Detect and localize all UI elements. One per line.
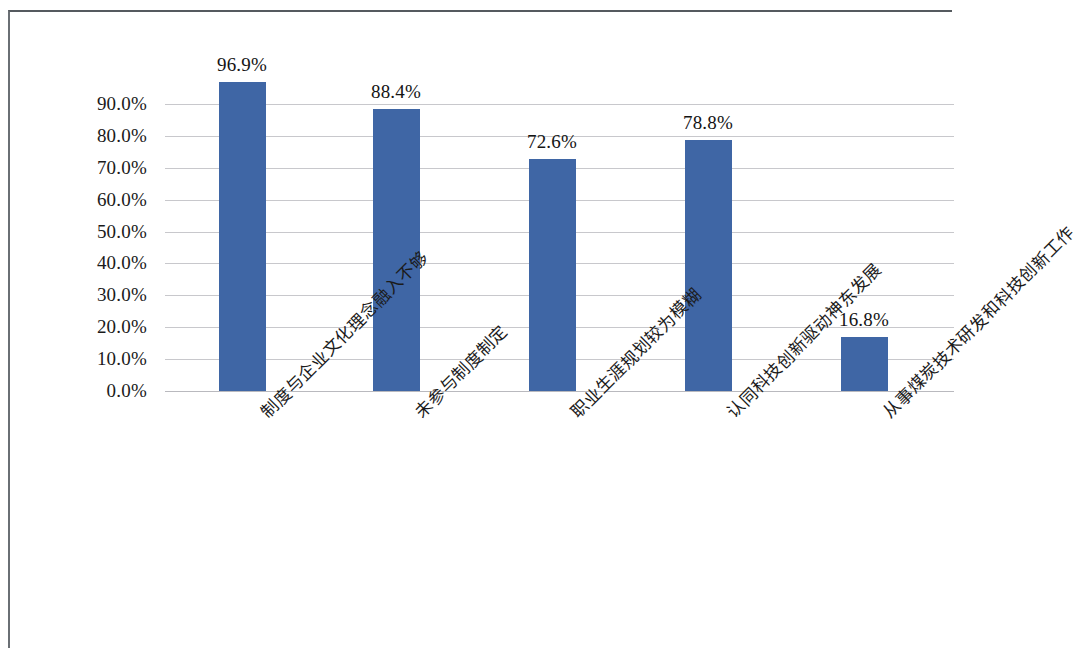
chart-frame: 0.0%10.0%20.0%30.0%40.0%50.0%60.0%70.0%8… bbox=[8, 10, 952, 648]
y-axis-tick-label: 0.0% bbox=[107, 380, 147, 402]
y-axis-tick-label: 20.0% bbox=[97, 316, 147, 338]
bar-value-label: 78.8% bbox=[683, 112, 733, 134]
category-label: 未参与制度制定 bbox=[408, 318, 512, 422]
bar[interactable] bbox=[219, 82, 266, 391]
bar[interactable] bbox=[685, 140, 732, 391]
y-axis-tick-label: 90.0% bbox=[97, 93, 147, 115]
bar[interactable] bbox=[841, 337, 888, 391]
y-axis-tick-label: 50.0% bbox=[97, 221, 147, 243]
y-axis-tick-label: 70.0% bbox=[97, 157, 147, 179]
gridline bbox=[165, 104, 954, 105]
plot-area: 0.0%10.0%20.0%30.0%40.0%50.0%60.0%70.0%8… bbox=[165, 72, 954, 391]
y-axis-tick-label: 60.0% bbox=[97, 189, 147, 211]
y-axis-tick-label: 40.0% bbox=[97, 252, 147, 274]
bar-value-label: 88.4% bbox=[371, 81, 421, 103]
y-axis-tick-label: 80.0% bbox=[97, 125, 147, 147]
category-label: 从事煤炭技术研发和科技创新工作 bbox=[876, 219, 1077, 422]
bar[interactable] bbox=[529, 159, 576, 391]
bar-value-label: 96.9% bbox=[217, 54, 267, 76]
y-axis-tick-label: 10.0% bbox=[97, 348, 147, 370]
bar-value-label: 72.6% bbox=[527, 131, 577, 153]
y-axis-tick-label: 30.0% bbox=[97, 284, 147, 306]
